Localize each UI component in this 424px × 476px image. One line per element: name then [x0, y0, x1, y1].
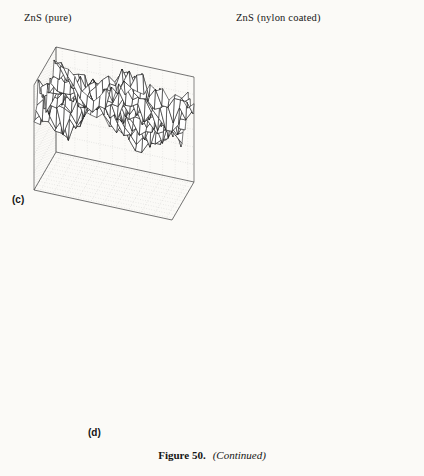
panel-c-surface-plots: ZnS (pure) ZnS (nylon coated) (c) — [0, 0, 424, 222]
panel-label-d: (d) — [88, 427, 101, 438]
figure-caption: Figure 50.(Continued) — [0, 449, 424, 461]
surface-plot-left-canvas — [0, 0, 212, 222]
surface-plot-zns-nylon-coated: ZnS (nylon coated) — [212, 0, 424, 222]
figure-page: ZnS (pure) ZnS (nylon coated) (c) (d) Fi… — [0, 0, 424, 476]
figure-continued-note: (Continued) — [213, 449, 266, 461]
bar-chart-canvas — [0, 222, 424, 440]
panel-label-c: (c) — [12, 194, 24, 205]
panel-d-bar-chart — [0, 222, 424, 440]
surface-plot-right-canvas — [212, 0, 424, 222]
figure-number: Figure 50. — [158, 449, 205, 461]
surface-plot-zns-pure: ZnS (pure) — [0, 0, 212, 222]
